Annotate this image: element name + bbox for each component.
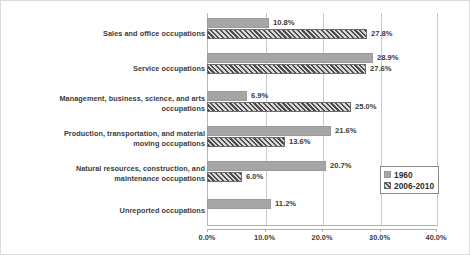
gridline-30 [381,13,382,226]
category-label-line1: Management, business, science, and arts [15,94,205,104]
category-label-line2: moving occupations [15,139,205,149]
x-tick-40 [436,229,437,232]
bar-value-2006-2010-production: 13.6% [289,137,311,147]
x-tick-0 [207,229,208,232]
bar-value-1960-service: 28.9% [377,53,399,63]
bar-chart: Sales and office occupations Service occ… [0,0,470,255]
category-label-line1: Production, transportation, and material [15,129,205,139]
bar-2006-2010-production[interactable] [207,137,285,147]
bar-1960-production[interactable] [207,126,331,136]
gridline-10 [266,13,267,226]
category-label-natural-resources-construction-maintenance: Natural resources, construction, and mai… [15,164,205,184]
legend-swatch-1960-icon [384,171,391,178]
legend-item-1960[interactable]: 1960 [384,169,434,180]
bar-value-1960-unreported: 11.2% [275,199,296,209]
category-label-production-transportation-material-moving: Production, transportation, and material… [15,129,205,149]
category-label-sales-and-office: Sales and office occupations [15,29,205,39]
bar-1960-management[interactable] [207,91,247,101]
gridline-20 [323,13,324,226]
bar-1960-natural-resources[interactable] [207,161,326,171]
bar-value-2006-2010-sales-and-office: 27.8% [371,29,393,39]
bar-value-1960-management: 6.9% [251,91,268,101]
chart-legend: 1960 2006-2010 [380,166,439,194]
legend-label-2006-2010: 2006-2010 [394,181,434,191]
category-label-unreported: Unreported occupations [15,206,205,216]
bar-2006-2010-natural-resources[interactable] [207,172,242,182]
bar-1960-service[interactable] [207,53,373,63]
bar-1960-unreported[interactable] [207,199,271,209]
bar-value-1960-sales-and-office: 10.8% [273,18,295,28]
bar-value-1960-natural-resources: 20.7% [330,161,352,171]
category-label-management-business-science-arts: Management, business, science, and arts … [15,94,205,114]
bar-value-2006-2010-service: 27.6% [370,64,392,74]
legend-label-1960: 1960 [394,170,413,180]
category-label-line1: Service occupations [15,64,205,74]
category-label-line1: Sales and office occupations [15,29,205,39]
bar-2006-2010-management[interactable] [207,102,351,112]
x-tick-10 [265,229,266,232]
gridline-40 [437,13,438,226]
bar-value-2006-2010-management: 25.0% [355,102,377,112]
legend-item-2006-2010[interactable]: 2006-2010 [384,180,434,191]
category-label-line1: Unreported occupations [15,206,205,216]
plot-area [207,13,437,226]
bar-1960-sales-and-office[interactable] [207,18,269,28]
category-label-line2: maintenance occupations [15,174,205,184]
legend-swatch-2006-2010-icon [384,182,391,189]
category-label-service: Service occupations [15,64,205,74]
bar-value-2006-2010-natural-resources: 6.0% [246,172,263,182]
x-axis-label-10: 10.0% [254,233,275,242]
bar-2006-2010-service[interactable] [207,64,366,74]
x-tick-20 [322,229,323,232]
x-tick-30 [380,229,381,232]
x-axis-label-20: 20.0% [312,233,333,242]
x-axis-label-30: 30.0% [369,233,390,242]
category-label-line2: occupations [15,104,205,114]
bar-value-1960-production: 21.6% [335,126,357,136]
bar-2006-2010-sales-and-office[interactable] [207,29,367,39]
category-label-line1: Natural resources, construction, and [15,164,205,174]
x-axis-label-0: 0.0% [199,233,216,242]
plot-bottom-rule [207,225,437,226]
x-axis-label-40: 40.0% [426,233,447,242]
